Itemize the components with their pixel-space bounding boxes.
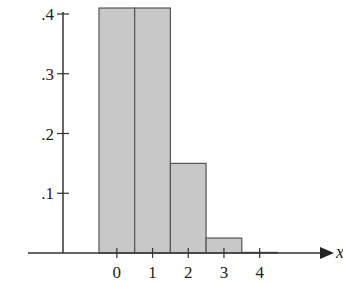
y-tick-label: .1	[41, 184, 54, 203]
x-tick-label: 3	[220, 263, 229, 282]
x-axis-arrow-icon	[320, 247, 334, 259]
x-tick-label: 1	[148, 263, 157, 282]
y-tick-label: .4	[41, 5, 54, 24]
bar-0	[99, 8, 135, 253]
x-tick-label: 4	[255, 263, 264, 282]
y-tick-label: .3	[41, 65, 54, 84]
x-axis-label: x	[335, 242, 343, 262]
histogram-chart: x .1.2.3.4 01234	[0, 0, 343, 284]
y-ticks: .1.2.3.4	[41, 5, 69, 203]
x-tick-label: 2	[184, 263, 193, 282]
x-tick-label: 0	[113, 263, 122, 282]
y-tick-label: .2	[41, 125, 54, 144]
bar-1	[135, 8, 171, 253]
bar-2	[170, 163, 206, 253]
bars	[99, 8, 278, 253]
